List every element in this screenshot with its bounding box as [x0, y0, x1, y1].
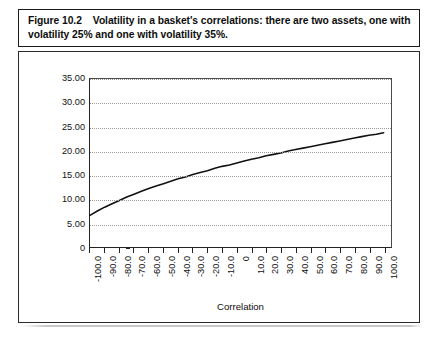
x-tick-mark — [340, 248, 341, 253]
x-tick-mark — [222, 248, 223, 253]
figure-number: Figure 10.2 — [28, 15, 82, 26]
x-tick-mark — [178, 248, 179, 253]
x-tick-mark — [355, 248, 356, 253]
x-tick-mark — [325, 248, 326, 253]
figure-caption-text: Figure 10.2Volatility in a basket's corr… — [28, 14, 412, 41]
y-tick-label: 30.00 — [43, 97, 85, 107]
x-tick-mark — [281, 248, 282, 253]
x-tick-mark — [385, 248, 386, 253]
x-tick-label: -70.0 — [137, 256, 147, 277]
x-tick-label: 90.0 — [374, 256, 384, 274]
x-tick-mark — [237, 248, 238, 253]
plot-area — [89, 78, 392, 248]
x-tick-label: 20.0 — [270, 256, 280, 274]
x-tick-label: -30.0 — [196, 256, 206, 277]
gridline-y — [90, 225, 391, 226]
gridline-y — [90, 103, 391, 104]
y-tick-label: 20.00 — [43, 146, 85, 156]
gridline-y — [90, 79, 391, 80]
x-tick-label: -50.0 — [167, 256, 177, 277]
x-tick-mark — [192, 248, 193, 253]
x-tick-mark — [104, 248, 105, 253]
x-tick-label: -100.0 — [93, 256, 103, 282]
x-axis-title: Correlation — [89, 301, 392, 312]
y-tick-label: 5.00 — [43, 219, 85, 229]
x-tick-label: -40.0 — [182, 256, 192, 277]
x-tick-label: -60.0 — [152, 256, 162, 277]
frame-shadow — [22, 325, 422, 327]
y-tick-label: 0 — [43, 243, 85, 253]
y-tick-label: 25.00 — [43, 122, 85, 132]
x-tick-mark — [148, 248, 149, 253]
x-tick-mark — [163, 248, 164, 253]
gridline-y — [90, 128, 391, 129]
x-tick-mark — [252, 248, 253, 253]
x-tick-label: 30.0 — [285, 256, 295, 274]
x-tick-label: 0 — [241, 256, 251, 261]
x-tick-mark — [311, 248, 312, 253]
x-tick-mark — [119, 248, 120, 253]
x-tick-label: 100.0 — [389, 256, 399, 279]
x-tick-label: -10.0 — [226, 256, 236, 277]
y-axis-ticks: 05.0010.0015.0020.0025.0030.0035.00 — [40, 78, 85, 248]
y-tick-label: 35.00 — [43, 73, 85, 83]
y-tick-label: 15.00 — [43, 170, 85, 180]
gridline-y — [90, 200, 391, 201]
figure-container: Figure 10.2Volatility in a basket's corr… — [0, 0, 439, 343]
figure-caption-box: Figure 10.2Volatility in a basket's corr… — [18, 9, 420, 47]
x-tick-label: 70.0 — [344, 256, 354, 274]
figure-caption-body: Volatility in a basket's correlations: t… — [28, 15, 410, 40]
x-tick-label: -20.0 — [211, 256, 221, 277]
gridline-y — [90, 176, 391, 177]
x-tick-mark — [207, 248, 208, 253]
gridline-y — [90, 152, 391, 153]
x-tick-label: -90.0 — [108, 256, 118, 277]
x-tick-mark — [370, 248, 371, 253]
y-tick-mark — [126, 248, 130, 249]
x-tick-label: 60.0 — [329, 256, 339, 274]
x-tick-mark — [89, 248, 90, 253]
x-tick-label: 50.0 — [315, 256, 325, 274]
x-tick-mark — [133, 248, 134, 253]
x-tick-label: 40.0 — [300, 256, 310, 274]
x-tick-label: 80.0 — [359, 256, 369, 274]
x-tick-mark — [266, 248, 267, 253]
x-tick-mark — [296, 248, 297, 253]
x-tick-label: -80.0 — [123, 256, 133, 277]
y-tick-label: 10.00 — [43, 194, 85, 204]
x-tick-label: 10.0 — [256, 256, 266, 274]
